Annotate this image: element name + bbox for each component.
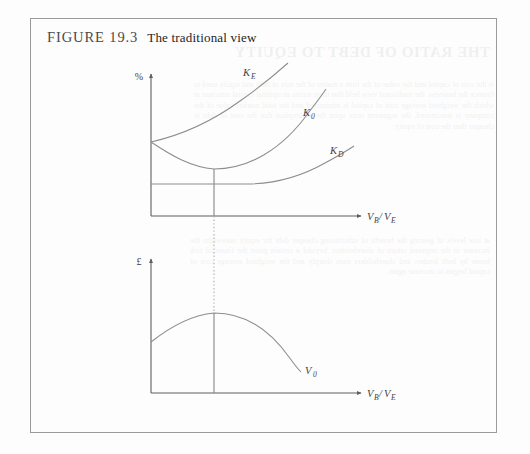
upper-x-label-sub-e: E: [390, 216, 396, 225]
curve-label-v0-sub: 0: [313, 370, 317, 379]
curve-label-v0: V 0: [305, 365, 317, 379]
curve-label-k0-sub: 0: [311, 112, 315, 121]
lower-x-label-slash: /: [378, 388, 383, 399]
curve-label-ke-main: K: [242, 67, 251, 78]
upper-chart-y-axis-label: %: [135, 71, 143, 82]
lower-x-label-sub-e: E: [390, 393, 396, 402]
curve-kd: [151, 146, 354, 184]
curve-label-kd-sub: D: [337, 150, 344, 159]
curve-label-ke: K E: [242, 67, 256, 81]
upper-chart: % V B / V E K E K 0 K D: [135, 63, 396, 225]
figure-page: THE RATIO OF DEBT TO EQUITY is the cost …: [0, 0, 530, 454]
curve-v0: [151, 313, 301, 372]
upper-chart-x-axis-label: V B / V E: [367, 211, 396, 225]
curve-ke: [151, 63, 288, 142]
lower-chart-x-axis-label: V B / V E: [367, 388, 396, 402]
curve-k0: [151, 89, 326, 169]
upper-x-label-slash: /: [378, 211, 383, 222]
curve-label-k0-main: K: [302, 107, 311, 118]
lower-chart: £ V B / V E V 0: [137, 256, 397, 402]
figure-graphics: % V B / V E K E K 0 K D: [0, 0, 530, 454]
curve-label-kd-main: K: [329, 145, 338, 156]
lower-chart-y-axis-label: £: [137, 256, 142, 267]
curve-label-ke-sub: E: [250, 72, 256, 81]
curve-label-v0-main: V: [305, 365, 313, 376]
